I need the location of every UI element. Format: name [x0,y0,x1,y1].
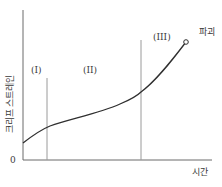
fracture-label: 파괴 [199,28,215,37]
y-axis-label: 크리프 스트레인 [6,75,15,134]
stage-label-primary: (I) [31,66,42,75]
fracture-point-marker [184,40,189,45]
stage-label-secondary: (II) [83,66,97,75]
x-axis-label: 시간 [192,168,208,177]
stage-label-tertiary: (III) [153,33,171,42]
origin-label: 0 [10,156,16,165]
creep-curve-diagram: 크리프 스트레인 0 시간 (I) (II) (III) 파괴 [0,0,222,187]
diagram-canvas [0,0,222,187]
